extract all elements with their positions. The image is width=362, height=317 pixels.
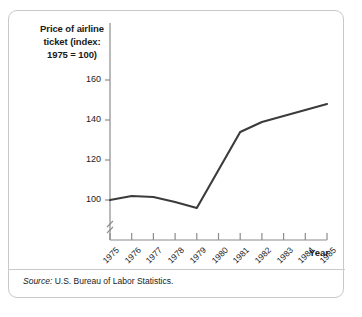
chart-plot-region: Price of airline ticket (index: 1975 = 1…	[9, 11, 345, 269]
data-series-line	[110, 104, 327, 208]
x-axis-ticks	[110, 233, 327, 240]
chart-title: Price of airline ticket (index: 1975 = 1…	[23, 23, 121, 61]
chart-title-line-1: Price of airline	[23, 23, 121, 36]
chart-title-line-3: 1975 = 100)	[23, 49, 121, 62]
chart-title-line-2: ticket (index:	[23, 36, 121, 49]
y-axis-ticks	[105, 80, 110, 200]
x-axis-label: Year	[309, 247, 329, 258]
figure-card: Price of airline ticket (index: 1975 = 1…	[8, 10, 344, 298]
source-note: Source: U.S. Bureau of Labor Statistics.	[23, 276, 173, 286]
y-tick-label-120: 120	[73, 154, 101, 164]
y-tick-label-140: 140	[73, 114, 101, 124]
source-label: Source:	[23, 276, 52, 286]
chart-axes	[110, 23, 327, 240]
source-text: U.S. Bureau of Labor Statistics.	[55, 276, 174, 286]
y-tick-label-100: 100	[73, 194, 101, 204]
source-divider	[9, 269, 345, 270]
y-tick-label-160: 160	[73, 74, 101, 84]
